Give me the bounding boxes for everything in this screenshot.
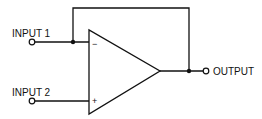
- opamp-triangle: [89, 30, 160, 114]
- feedback-wire: [73, 8, 189, 71]
- opamp-schematic: − + INPUT 1 INPUT 2 OUTPUT: [0, 0, 262, 119]
- input2-label: INPUT 2: [12, 87, 51, 98]
- output-label: OUTPUT: [213, 66, 254, 77]
- input1-terminal: [29, 39, 35, 45]
- input1-label: INPUT 1: [12, 28, 51, 39]
- input2-terminal: [29, 98, 35, 104]
- inverting-sign: −: [92, 39, 97, 49]
- output-terminal: [203, 68, 209, 74]
- output-junction-dot: [187, 69, 191, 73]
- noninverting-sign: +: [92, 96, 97, 106]
- input1-junction-dot: [71, 40, 75, 44]
